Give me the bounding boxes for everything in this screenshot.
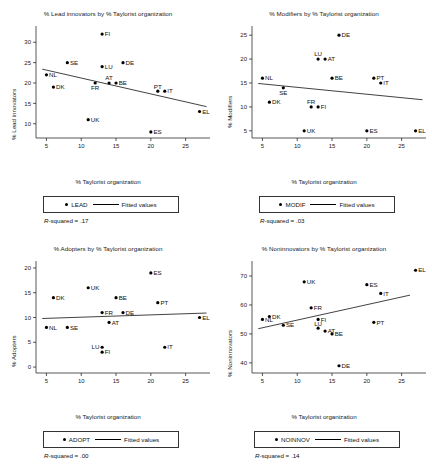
data-point [101,33,104,36]
data-point [330,77,333,80]
data-point-label: PT [154,83,162,90]
y-tick-label: 15 [240,80,247,86]
legend-fit-entry: Fitted values [93,201,157,208]
data-point-label: FR [105,309,114,316]
legend-adopt: ADOPT Fitted values [43,431,179,448]
data-point [101,311,104,314]
data-point [317,105,320,108]
panel-noinnov: % Noninnovators by % Taylorist organizat… [216,235,432,470]
data-point [310,105,313,108]
x-tick-label: 10 [294,378,301,384]
data-point [163,90,166,93]
r-squared-value: -squared = .17 [48,217,88,224]
data-point-label: NL [49,324,57,331]
data-point [114,81,117,84]
data-point-label: AT [105,74,113,81]
legend-line-icon [93,204,119,205]
x-axis-label: % Taylorist organization [0,178,216,185]
legend-dot-icon [279,203,282,206]
data-point-label: AT [112,319,120,326]
data-point [114,296,117,299]
x-axis-label: % Taylorist organization [216,178,432,185]
data-point-label: DE [342,362,351,369]
fitted-line [42,313,206,318]
data-point-label: IT [383,290,389,297]
data-point-label: SE [70,324,78,331]
legend-series-label: LEAD [71,201,87,208]
y-tick-label: 70 [240,273,247,279]
data-point-label: DK [272,313,281,320]
data-point-label: IT [167,87,173,94]
fitted-line [42,69,206,106]
data-point [365,283,368,286]
data-point-label: EL [202,314,210,321]
data-point [365,129,368,132]
x-tick-label: 20 [363,378,370,384]
data-point [87,286,90,289]
r-squared-value: -squared = .03 [264,217,304,224]
data-point-label: FI [105,30,111,37]
y-tick-label: 20 [24,265,31,271]
data-point [337,34,340,37]
legend-dot-icon [65,203,68,206]
legend-series-label: MODIF [285,201,305,208]
data-point-label: LU [105,63,113,70]
data-point-label: NL [265,74,273,81]
legend-lead: LEAD Fitted values [43,196,179,213]
data-point-label: AT [328,55,336,62]
data-point [317,57,320,60]
legend-series-entry: ADOPT [63,436,90,443]
data-point-label: LU [92,343,100,350]
legend-dot-icon [275,438,278,441]
plot-area-noinnov: 40506070510152025NLDKSEUKFRFILUATBEDEESP… [216,253,432,403]
legend-fit-entry: Fitted values [315,436,379,443]
x-tick-label: 5 [45,143,49,149]
data-point-label: DE [126,309,135,316]
data-point-label: ES [153,269,161,276]
data-point-label: DK [56,83,65,90]
data-point [45,73,48,76]
legend-line-icon [310,204,336,205]
y-tick-label: 25 [240,32,247,38]
data-point-label: SE [70,59,78,66]
y-tick-label: 50 [240,331,247,337]
data-point-label: LU [314,320,322,327]
data-point-label: EL [202,108,210,115]
data-point [149,271,152,274]
data-point [52,296,55,299]
data-point-label: DE [342,31,351,38]
data-point [379,81,382,84]
x-tick-label: 15 [329,378,336,384]
data-point-label: FI [105,348,111,355]
data-point [198,110,201,113]
data-point [107,321,110,324]
x-tick-label: 15 [113,143,120,149]
x-axis-label: % Taylorist organization [0,413,216,420]
legend-fit-label: Fitted values [344,436,379,443]
data-point [282,324,285,327]
data-point [163,346,166,349]
r-squared-lead: R-squared = .17 [44,217,89,224]
data-point [101,65,104,68]
legend-modif: MODIF Fitted values [259,196,395,213]
x-tick-label: 25 [182,143,189,149]
r-squared-adopt: R-squared = .00 [44,452,89,459]
data-point-label: DK [56,294,65,301]
data-point-label: PT [376,319,384,326]
plot-area-lead: 1015202530510152025NLDKSEUKFRFILUATBEDEE… [0,18,216,168]
data-point-label: UK [307,127,316,134]
x-tick-label: 10 [294,143,301,149]
data-point [414,269,417,272]
legend-noinnov: NOINNOV Fitted values [254,431,400,448]
y-tick-label: 15 [24,101,31,107]
data-point-label: BE [335,74,343,81]
panel-title: % Lead innovators by % Taylorist organiz… [0,10,216,17]
data-point [372,77,375,80]
data-point-label: NL [49,71,57,78]
legend-series-entry: NOINNOV [275,436,310,443]
data-point [414,129,417,132]
data-point [303,129,306,132]
data-point-label: EL [418,127,426,134]
data-point-label: BE [119,294,127,301]
data-point [330,332,333,335]
